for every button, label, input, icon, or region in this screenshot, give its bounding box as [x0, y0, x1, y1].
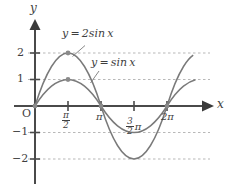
marker-peak-2sinx [66, 51, 71, 56]
xtick-label-pi: π [96, 112, 103, 122]
marker-peak-sinx [66, 77, 71, 82]
plot-canvas [0, 0, 233, 194]
marker-origin [33, 104, 38, 109]
fraction-three-halves: 3 2 [126, 117, 134, 137]
curve-label-2sinx: y = 2sin x [62, 28, 113, 39]
pi-symbol: π [134, 122, 142, 132]
leader-line-sinx [91, 71, 100, 83]
y-axis-arrowhead [30, 19, 41, 30]
three-halves-pi-group: 3 2 π [126, 117, 141, 137]
trig-graph-figure: y x O 2 1 −1 −2 π 2 π 3 2 π 2π y = 2sin … [0, 0, 233, 194]
ytick-label-1: 1 [17, 73, 24, 84]
x-axis-arrowhead [202, 101, 214, 112]
marker-zero-pi [99, 104, 104, 109]
y-axis-label: y [30, 2, 37, 14]
ytick-label-neg2: −2 [12, 153, 28, 164]
x-axis-label: x [217, 98, 224, 110]
marker-zero-2pi [165, 104, 170, 109]
leader-line-2sinx [73, 46, 86, 57]
fraction-denominator: 2 [126, 126, 134, 136]
fraction-numerator: 3 [126, 117, 134, 126]
curve-label-sinx: y = sin x [91, 57, 135, 68]
ytick-label-2: 2 [17, 47, 24, 58]
fraction-numerator: π [62, 111, 70, 120]
fraction-denominator: 2 [62, 120, 70, 130]
xtick-label-pi-over-2: π 2 [62, 111, 70, 131]
fraction-pi-over-2: π 2 [62, 111, 70, 131]
ytick-label-neg1: −1 [12, 126, 28, 137]
x-axis [14, 101, 214, 112]
xtick-label-3pi-over-2: 3 2 π [126, 111, 141, 137]
xtick-label-2pi: 2π [161, 112, 174, 122]
origin-label: O [22, 108, 31, 119]
